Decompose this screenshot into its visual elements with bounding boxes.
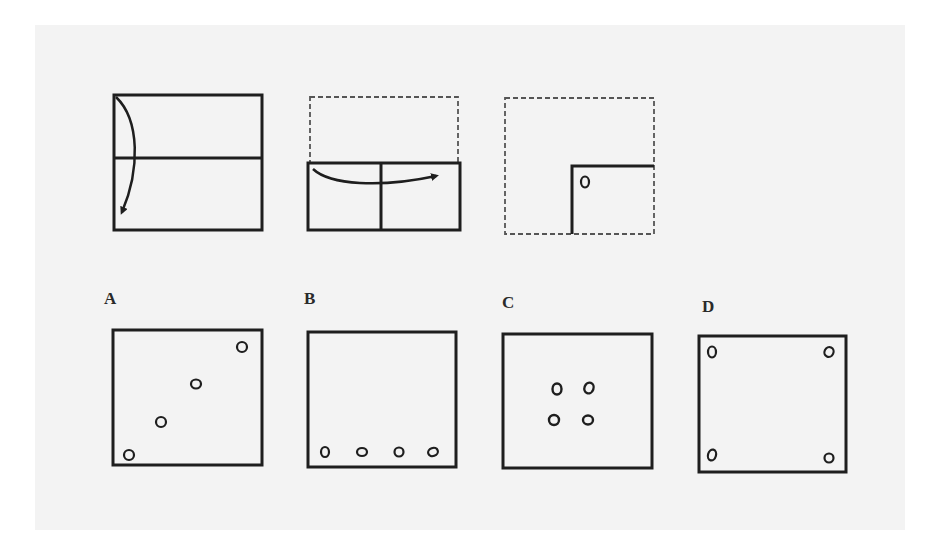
puzzle-diagram xyxy=(0,0,946,557)
option-d-label: D xyxy=(702,298,714,315)
hole xyxy=(583,416,593,425)
hole xyxy=(708,347,716,358)
option-d-figure[interactable] xyxy=(699,336,846,472)
hole xyxy=(427,447,439,458)
option-c-figure[interactable] xyxy=(503,334,652,468)
option-b-figure[interactable] xyxy=(308,332,456,467)
hole xyxy=(395,448,404,457)
hole xyxy=(156,417,166,427)
hole xyxy=(321,447,329,457)
hole xyxy=(124,450,134,460)
fold-down-arrow-icon xyxy=(116,97,135,212)
option-c-label: C xyxy=(502,294,514,311)
fold-right-arrow-icon xyxy=(313,169,436,183)
step-2-figure xyxy=(308,97,460,230)
hole xyxy=(553,384,562,395)
unfolded-outline xyxy=(310,97,458,163)
step-1-figure xyxy=(114,95,262,230)
punched-hole xyxy=(581,177,589,188)
hole xyxy=(191,380,201,389)
option-a-label: A xyxy=(104,290,116,307)
hole xyxy=(357,448,367,456)
step-3-figure xyxy=(505,98,654,234)
hole xyxy=(583,381,595,394)
hole xyxy=(549,415,559,425)
option-b-label: B xyxy=(304,290,315,307)
hole xyxy=(823,346,835,359)
option-a-figure[interactable] xyxy=(113,330,262,465)
hole xyxy=(825,454,834,463)
hole xyxy=(237,342,247,352)
hole xyxy=(707,449,718,462)
